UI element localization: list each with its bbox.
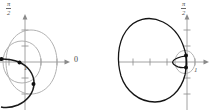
polar-plot-right: π 2 1 [107, 0, 215, 110]
right-limacon-outer-curve [118, 19, 186, 102]
right-vertical-axis-label: π 2 [181, 1, 186, 17]
right-axis-label-numerator: π [181, 1, 186, 8]
right-radial-tick-label: 1 [194, 67, 198, 74]
left-plot-canvas [0, 0, 107, 110]
left-horizontal-axis-label: 0 [74, 56, 78, 64]
right-loop-endpoint-dot [184, 66, 188, 70]
left-vertical-axis-arrow-icon [23, 14, 28, 20]
left-radial-tick-label: 1 [24, 65, 28, 72]
right-plot-canvas [107, 0, 215, 110]
right-horizontal-axis-arrow-icon [204, 60, 210, 65]
left-axis-label-numerator: π [6, 1, 11, 8]
left-arc-endpoint-dot [18, 61, 22, 65]
right-axis-label-denominator: 2 [181, 10, 186, 17]
left-vertical-axis-label: π 2 [6, 1, 11, 17]
left-axis-label-denominator: 2 [6, 10, 11, 17]
right-loop-endpoint-dot [184, 54, 188, 58]
left-horizontal-axis-arrow-icon [65, 60, 71, 65]
polar-figure: π 2 0 1 [0, 0, 215, 110]
polar-plot-left: π 2 0 1 [0, 0, 107, 110]
left-arc-endpoint-dot [32, 82, 36, 86]
